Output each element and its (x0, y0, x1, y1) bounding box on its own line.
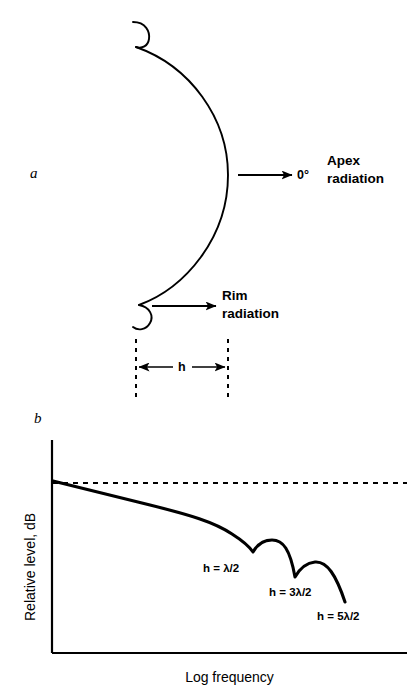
panel-a-letter: a (30, 165, 38, 182)
response-curve (53, 481, 345, 602)
rim-radiation-label-line2: radiation (222, 306, 307, 321)
y-axis-label: Relative level, dB (22, 513, 38, 621)
dome-bottom-rim-icon (133, 305, 152, 329)
rim-radiation-label-line1: Rim (222, 288, 302, 303)
dimension-label-h: h (178, 360, 186, 374)
on-axis-angle-label: 0° (297, 168, 309, 182)
panel-a-artwork (133, 22, 292, 398)
dome-profile-curve (136, 47, 228, 305)
apex-radiation-label-line1: Apex (327, 153, 417, 168)
dome-top-rim-icon (133, 22, 149, 48)
null-annotation-third: h = 5λ/2 (317, 610, 360, 623)
figure-root: a 0° Apex radiation Rim radiation h b Re… (0, 0, 420, 700)
apex-radiation-label-line2: radiation (327, 171, 420, 186)
x-axis-label: Log frequency (52, 670, 407, 686)
figure-artwork (0, 0, 420, 700)
null-annotation-second: h = 3λ/2 (269, 586, 312, 599)
null-annotation-first: h = λ/2 (203, 562, 239, 575)
panel-b-letter: b (34, 410, 42, 427)
